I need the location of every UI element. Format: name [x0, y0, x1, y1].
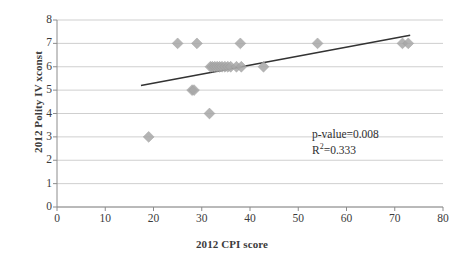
x-tick-label: 0 — [43, 213, 71, 225]
x-tick-label: 10 — [91, 213, 119, 225]
gridlines — [57, 20, 443, 207]
y-tick-label: 5 — [30, 84, 52, 96]
y-tick-label: 2 — [30, 154, 52, 166]
x-tick-label: 60 — [333, 213, 361, 225]
plot-area — [57, 20, 443, 207]
y-tick-label: 4 — [30, 108, 52, 120]
data-point-marker — [235, 38, 246, 49]
y-tick-label: 8 — [30, 14, 52, 26]
r-squared-value: =0.333 — [324, 144, 356, 156]
stats-annotation: p-value=0.008 R2=0.333 — [312, 127, 379, 157]
data-point-marker — [143, 131, 154, 142]
x-tick-label: 20 — [140, 213, 168, 225]
p-value-text: p-value=0.008 — [312, 127, 379, 142]
y-tick-label: 7 — [30, 37, 52, 49]
x-tick-label: 80 — [429, 213, 457, 225]
data-point-marker — [204, 108, 215, 119]
x-tick-label: 30 — [188, 213, 216, 225]
r-squared-prefix: R — [312, 144, 320, 156]
plot-svg — [57, 20, 443, 207]
axis-tickmarks — [53, 20, 443, 211]
x-tick-label: 50 — [284, 213, 312, 225]
data-point-marker — [192, 38, 203, 49]
x-tick-label: 70 — [381, 213, 409, 225]
data-point-marker — [312, 38, 323, 49]
y-tick-label: 1 — [30, 178, 52, 190]
y-tick-label: 6 — [30, 61, 52, 73]
data-point-marker — [172, 38, 183, 49]
y-tick-label: 3 — [30, 131, 52, 143]
x-axis-title: 2012 CPI score — [0, 238, 464, 250]
y-tick-label: 0 — [30, 201, 52, 213]
r-squared-text: R2=0.333 — [312, 142, 379, 158]
scatter-chart: 2012 Polity IV xconst 012345678 p-value=… — [0, 0, 464, 261]
x-tick-label: 40 — [236, 213, 264, 225]
